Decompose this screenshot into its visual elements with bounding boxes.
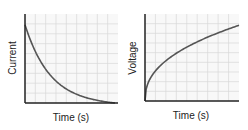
x-axis-label: Time (s): [53, 112, 89, 123]
y-axis-label: Current: [7, 41, 18, 75]
x-axis-label: Time (s): [173, 110, 209, 121]
y-axis-label: Voltage: [127, 41, 138, 75]
voltage-chart: Time (s) Voltage: [127, 14, 239, 121]
current-chart: Time (s) Current: [7, 14, 118, 123]
charts-canvas: Time (s) Current Time (s) Voltage: [0, 0, 248, 130]
plot-area: [145, 14, 239, 101]
